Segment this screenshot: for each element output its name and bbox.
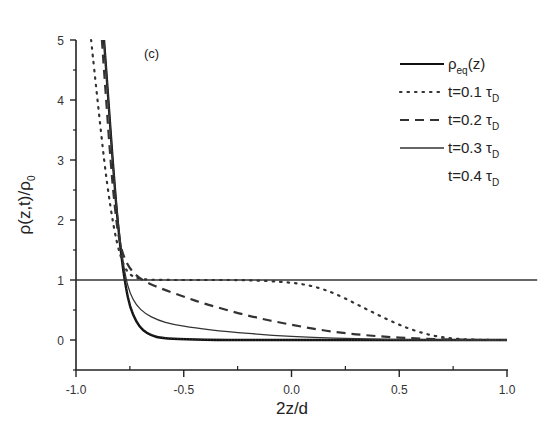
legend-item: t=0.3 τD bbox=[400, 139, 499, 160]
x-tick-label: 0.0 bbox=[283, 383, 300, 397]
x-tick-label: 1.0 bbox=[499, 383, 516, 397]
legend-item: t=0.2 τD bbox=[400, 111, 499, 132]
y-tick-label: 3 bbox=[57, 154, 64, 168]
y-ticks: 012345 bbox=[57, 34, 76, 370]
legend-item: t=0.4 τD bbox=[448, 167, 499, 188]
legend-label: t=0.4 τD bbox=[448, 167, 499, 188]
density-profile-chart: 012345 -1.0-0.50.00.51.0 (c) 2z/d ρ(z,t)… bbox=[0, 0, 560, 438]
x-tick-label: 0.5 bbox=[391, 383, 408, 397]
series-line-2 bbox=[102, 40, 507, 340]
svg-text:ρ(z,t)/ρ0: ρ(z,t)/ρ0 bbox=[15, 175, 37, 234]
x-tick-label: -1.0 bbox=[66, 383, 87, 397]
legend-item: ρeq(z) bbox=[400, 55, 485, 76]
series-line-4 bbox=[104, 40, 507, 340]
legend-label: ρeq(z) bbox=[448, 55, 485, 76]
x-tick-label: -0.5 bbox=[173, 383, 194, 397]
y-tick-label: 5 bbox=[57, 34, 64, 48]
legend: ρeq(z)t=0.1 τDt=0.2 τDt=0.3 τDt=0.4 τD bbox=[400, 55, 499, 188]
y-tick-label: 2 bbox=[57, 214, 64, 228]
legend-item: t=0.1 τD bbox=[400, 83, 499, 104]
series-line-1 bbox=[91, 40, 507, 340]
x-axis-title: 2z/d bbox=[276, 399, 308, 418]
y-tick-label: 1 bbox=[57, 274, 64, 288]
y-axis-title-sub: 0 bbox=[26, 175, 37, 181]
legend-label: t=0.1 τD bbox=[448, 83, 499, 104]
panel-label: (c) bbox=[144, 46, 159, 61]
legend-label: t=0.3 τD bbox=[448, 139, 499, 160]
y-tick-label: 0 bbox=[57, 334, 64, 348]
y-axis-title: ρ(z,t)/ρ0 bbox=[15, 175, 37, 234]
series-line-3 bbox=[104, 40, 507, 340]
y-tick-label: 4 bbox=[57, 94, 64, 108]
legend-label: t=0.2 τD bbox=[448, 111, 499, 132]
axes: 012345 -1.0-0.50.00.51.0 bbox=[57, 34, 515, 397]
y-axis-title-main: ρ(z,t)/ρ bbox=[15, 181, 34, 234]
series-line-0 bbox=[104, 40, 507, 340]
